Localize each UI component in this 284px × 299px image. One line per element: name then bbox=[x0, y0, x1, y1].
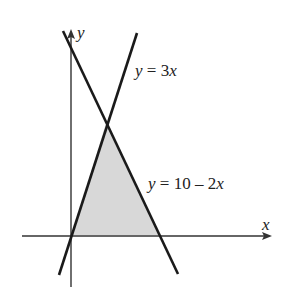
diagram-canvas bbox=[0, 0, 284, 299]
line2-label: y = 10 – 2x bbox=[148, 175, 224, 192]
y-axis-label: y bbox=[77, 24, 85, 41]
x-axis-label: x bbox=[262, 216, 270, 233]
shaded-region bbox=[72, 123, 160, 235]
line1-label: y = 3x bbox=[135, 62, 177, 79]
